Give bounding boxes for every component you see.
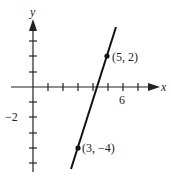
graph: x y 6 −2 (5, 2) (3, −4) [0, 0, 171, 185]
point-label-5-2: (5, 2) [112, 50, 138, 64]
x-tick-label-6: 6 [119, 93, 125, 107]
y-axis-label: y [29, 5, 36, 19]
y-tick-label-neg2: −2 [5, 110, 18, 124]
x-axis-label: x [160, 80, 167, 94]
point-3-neg4 [75, 145, 80, 150]
point-5-2 [104, 53, 109, 58]
point-label-3-neg4: (3, −4) [82, 141, 115, 155]
y-axis-arrow-icon [29, 19, 37, 31]
x-axis-arrow-icon [148, 83, 160, 91]
